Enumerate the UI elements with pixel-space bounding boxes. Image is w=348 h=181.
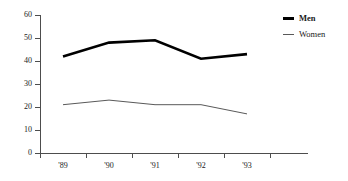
series-line-men <box>63 40 247 58</box>
y-tick-label: 40 <box>8 57 32 65</box>
x-tick-label: '93 <box>232 162 262 170</box>
legend-label-women: Women <box>299 30 325 39</box>
thick-line-swatch-icon <box>283 17 294 20</box>
x-axis-line <box>40 153 308 154</box>
x-tick-mark <box>86 153 87 158</box>
y-axis-line <box>40 15 41 153</box>
y-tick-mark <box>35 15 40 16</box>
y-tick-mark <box>35 38 40 39</box>
legend-item-women[interactable]: Women <box>283 28 347 41</box>
y-tick-mark <box>35 84 40 85</box>
y-tick-label: 0 <box>8 149 32 157</box>
chart-legend: Men Women <box>283 12 347 44</box>
x-tick-mark <box>178 153 179 158</box>
series-line-women <box>63 100 247 114</box>
x-tick-label: '89 <box>48 162 78 170</box>
y-tick-label: 30 <box>8 80 32 88</box>
thin-line-swatch-icon <box>283 34 294 35</box>
y-tick-label: 60 <box>8 11 32 19</box>
x-tick-mark <box>224 153 225 158</box>
x-tick-label: '92 <box>186 162 216 170</box>
x-tick-mark <box>132 153 133 158</box>
y-tick-mark <box>35 130 40 131</box>
y-tick-label: 10 <box>8 126 32 134</box>
x-tick-mark <box>40 153 41 158</box>
legend-label-men: Men <box>299 14 316 23</box>
x-tick-label: '90 <box>94 162 124 170</box>
legend-item-men[interactable]: Men <box>283 12 347 25</box>
line-chart: 0102030405060 '89'90'91'92'93 Men Women <box>0 0 348 181</box>
y-tick-mark <box>35 61 40 62</box>
y-tick-label: 20 <box>8 103 32 111</box>
x-tick-mark <box>270 153 271 158</box>
y-tick-mark <box>35 107 40 108</box>
x-tick-label: '91 <box>140 162 170 170</box>
y-tick-label: 50 <box>8 34 32 42</box>
